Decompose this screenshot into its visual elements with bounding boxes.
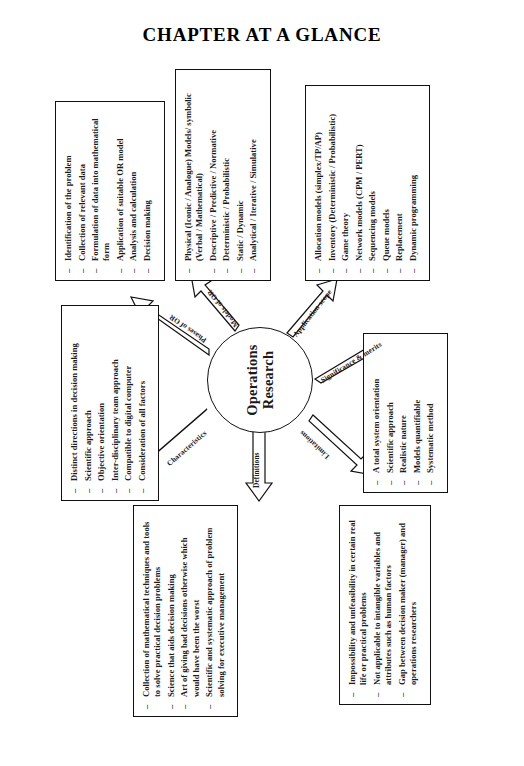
list-item: Application of suitable OR model (115, 110, 126, 273)
characteristics-list: Distinct directions in decision making S… (69, 314, 148, 493)
list-item: Consideration of all factors (137, 314, 148, 493)
list-item: Decision making (142, 110, 153, 273)
list-item: Analytical / Iterative / Simulative (248, 78, 259, 273)
hub-label-line2: Research (260, 351, 276, 410)
list-item: Static / Dynamic (235, 78, 246, 273)
hub-label-line1: Operations (244, 344, 260, 415)
list-item: Scientific approach (83, 314, 94, 493)
list-item: Distinct directions in decision making (69, 314, 80, 493)
list-item: Deterministic / Probabilistic (221, 78, 232, 273)
arrow-label-definitions: Definitions (252, 452, 261, 488)
models-list: Physical (Iconic / Analogue) Models/ sym… (183, 78, 260, 273)
list-item: Sequencing models (367, 94, 378, 273)
list-item: A total system orientation (371, 342, 382, 485)
list-item: Compatible to digital computer (123, 314, 134, 493)
list-item: Analysis and calculation (128, 110, 139, 273)
list-item: Gap between decision maker (manager) and… (397, 514, 420, 697)
list-item: Game theory (340, 94, 351, 273)
list-item: Network models (CPM / PERT) (354, 94, 365, 273)
central-node-operations-research: Operations Research (207, 327, 313, 433)
chapter-at-a-glance-diagram: Definitions Characteristics Phases of OR… (47, 33, 477, 733)
box-characteristics: Distinct directions in decision making S… (61, 305, 159, 501)
list-item: Art of giving bad decisions otherwise wh… (179, 514, 202, 709)
list-item: Scientific approach (385, 342, 396, 485)
list-item: Collection of relevant data (77, 110, 88, 273)
list-item: Objective orientation (96, 314, 107, 493)
list-item: Models quantifiable (412, 342, 423, 485)
list-item: Replacement (394, 94, 405, 273)
diagram-canvas: Definitions Characteristics Phases of OR… (47, 33, 477, 733)
list-item: Formulation of data into mathematical fo… (90, 110, 113, 273)
list-item: Dynamic programming (408, 94, 419, 273)
list-item: Identification of the problem (63, 110, 74, 273)
list-item: Allocation models (simplex/TP/AP) (313, 94, 324, 273)
list-item: Queue models (381, 94, 392, 273)
box-definitions: Collection of mathematical techniques an… (133, 505, 238, 717)
list-item: Inter-disciplinary team approach (110, 314, 121, 493)
limitations-list: Impossibility and unfeasibility in certa… (347, 514, 419, 697)
phases-list: Identification of the problem Collection… (63, 110, 153, 273)
box-models-of-or: Physical (Iconic / Analogue) Models/ sym… (175, 69, 271, 281)
definitions-list: Collection of mathematical techniques an… (141, 514, 227, 709)
box-application-scope: Allocation models (simplex/TP/AP) Invent… (305, 85, 430, 281)
significance-list: A total system orientation Scientific ap… (371, 342, 436, 485)
list-item: Science that aids decision making (166, 514, 177, 709)
list-item: Scientific and systematic approach of pr… (204, 514, 227, 709)
list-item: Impossibility and unfeasibility in certa… (347, 514, 370, 697)
box-significance-and-merits: A total system orientation Scientific ap… (363, 333, 448, 493)
list-item: Physical (Iconic / Analogue) Models/ sym… (183, 78, 206, 273)
list-item: Realistic nature (398, 342, 409, 485)
application-scope-list: Allocation models (simplex/TP/AP) Invent… (313, 94, 419, 273)
box-phases-of-or: Identification of the problem Collection… (55, 101, 165, 281)
list-item: Inventory (Deterministic / Probabilistic… (327, 94, 338, 273)
list-item: Collection of mathematical techniques an… (141, 514, 164, 709)
box-limitations: Impossibility and unfeasibility in certa… (339, 505, 431, 705)
list-item: Not applicable to intangible variables a… (372, 514, 395, 697)
list-item: Descriptive / Predictive / Normative (208, 78, 219, 273)
list-item: Systematic method (425, 342, 436, 485)
